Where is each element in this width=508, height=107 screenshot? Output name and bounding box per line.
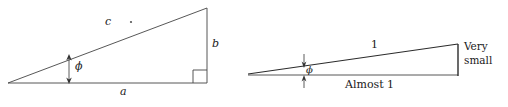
label-vertical-b: b bbox=[212, 38, 219, 50]
label-very-small-line1: Very bbox=[464, 41, 488, 52]
label-very-small-line2: small bbox=[464, 55, 492, 66]
label-base-almost-one: Almost 1 bbox=[345, 79, 394, 91]
label-hypotenuse-one: 1 bbox=[371, 39, 378, 51]
right-angle-square-icon bbox=[193, 70, 207, 83]
label-angle-phi-right: ϕ bbox=[306, 65, 313, 76]
figure-canvas: c b a ϕ 1 Very small Almost 1 ϕ bbox=[0, 0, 508, 107]
label-hypotenuse-c: c bbox=[105, 16, 111, 28]
right-triangle-hypotenuse-line bbox=[248, 44, 458, 74]
label-angle-phi-left: ϕ bbox=[75, 61, 83, 73]
triangles-svg bbox=[0, 0, 508, 107]
label-base-a: a bbox=[120, 86, 127, 98]
hypotenuse-dot-icon bbox=[130, 21, 132, 23]
